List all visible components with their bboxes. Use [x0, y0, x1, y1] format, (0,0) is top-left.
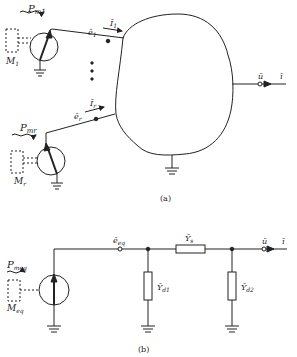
output-terminal: [258, 82, 262, 86]
machine-eq-icon: [8, 280, 20, 301]
caption-a: (a): [160, 194, 171, 203]
series-admittance-ys: [176, 245, 205, 253]
label-ys: Ȳs: [185, 234, 193, 244]
label-pm1: Pm1: [27, 3, 46, 16]
caption-b: (b): [138, 345, 149, 354]
label-pmr: Pmr: [19, 122, 37, 135]
label-pmeq: Pmeq: [6, 259, 27, 272]
label-i1: Ī1: [109, 19, 117, 29]
shunt-admittance-yd1: [144, 272, 152, 300]
label-yd2: Ȳd2: [241, 283, 254, 293]
label-i-b: ī: [282, 237, 285, 246]
label-mr: Mr: [13, 176, 27, 187]
circuit-diagram: Pm1 M1 ē1 Ī1 Pmr Mr ēr Īr ū ī (a) Pmeq M…: [0, 0, 297, 357]
label-meq: Meq: [6, 303, 24, 315]
output-terminal-b: [262, 247, 266, 251]
label-e1: ē1: [88, 28, 97, 38]
generator-mr-icon: [37, 147, 65, 175]
network-blob: [116, 14, 233, 155]
label-u-a: ū: [258, 72, 263, 81]
emf-eq-terminal: [118, 247, 122, 251]
label-u-b: ū: [262, 237, 267, 246]
machine-mr-icon: [11, 151, 23, 173]
shunt-admittance-yd2: [228, 272, 236, 300]
label-ir: Īr: [89, 99, 97, 109]
label-m1: M1: [5, 56, 19, 67]
output-current-arrow-icon: [264, 81, 271, 87]
label-yd1: Ȳd1: [157, 283, 170, 293]
machine-m1-icon: [6, 29, 18, 52]
label-i-a: ī: [280, 72, 283, 81]
label-eeq: ēeq: [113, 236, 125, 247]
label-er: ēr: [74, 112, 83, 122]
output-current-arrow-b-icon: [267, 246, 274, 252]
